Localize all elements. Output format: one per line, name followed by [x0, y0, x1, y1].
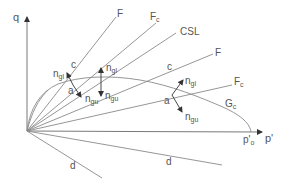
label-n-gu-center: ngu [105, 91, 118, 102]
p-axis-label: p' [265, 133, 273, 144]
p-axis [128, 132, 262, 133]
label-n-gl-right: ngl [185, 76, 196, 87]
diagram-svg [0, 0, 283, 188]
label-CSL: CSL [180, 27, 199, 37]
label-F-lower: F [215, 48, 221, 58]
label-a-left: a [68, 86, 74, 96]
p-o-label: p'o [243, 135, 254, 146]
line-d-upper [27, 131, 102, 178]
label-d-upper: d [70, 161, 76, 171]
label-F-upper: F [117, 9, 123, 19]
label-n-gu-left: ngu [85, 94, 98, 105]
q-axis-label: q [13, 12, 19, 23]
label-Fc-lower: Fc [234, 77, 244, 88]
label-n-gu-right: ngu [185, 112, 198, 123]
label-c-right: c [167, 62, 172, 72]
diagram-canvas: q p' p'o F Fc CSL F Fc d d Gc c c a a ng… [0, 0, 283, 188]
label-Fc-upper: Fc [150, 12, 160, 23]
label-a-right: a [164, 96, 170, 106]
label-c-left: c [71, 60, 76, 70]
label-Gc: Gc [225, 99, 236, 110]
label-d-lower: d [166, 157, 172, 167]
curve-inner [27, 90, 48, 131]
line-CSL [27, 33, 176, 131]
arrow-n-gl-right [172, 80, 183, 95]
p-axis-segment [27, 131, 128, 132]
label-n-gl-center: ngl [106, 63, 117, 74]
line-d-lower [27, 131, 222, 165]
label-n-gl-left: ngl [53, 69, 64, 80]
